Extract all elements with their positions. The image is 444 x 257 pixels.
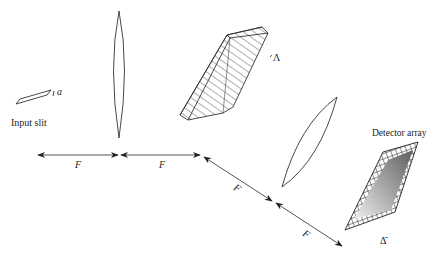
spectrometer-diagram: a Input slit Λ Detector array Δ̄ F F F F: [0, 0, 444, 257]
lens-2: [282, 97, 337, 187]
lens-1: [114, 11, 125, 138]
distance-label-4: F: [300, 227, 313, 241]
slit-shape: [16, 90, 51, 104]
slit-width-label: a: [57, 86, 62, 97]
slit-width-tick: [53, 91, 54, 96]
distance-label-2: F: [158, 159, 166, 170]
distance-label-3: F: [231, 181, 244, 195]
diffraction-grating: Λ: [180, 27, 281, 120]
input-slit-label: Input slit: [11, 117, 47, 128]
distance-label-1: F: [74, 159, 82, 170]
distance-arrow-3: [204, 157, 272, 201]
distance-arrows: F F F F: [38, 155, 342, 246]
grating-period-label: Λ: [273, 52, 281, 63]
distance-arrow-4: [276, 203, 342, 246]
detector-pixel-label: Δ̄: [380, 235, 388, 246]
detector-array: Detector array Δ̄: [345, 128, 427, 246]
input-slit: a Input slit: [11, 86, 62, 128]
detector-label: Detector array: [372, 128, 427, 138]
